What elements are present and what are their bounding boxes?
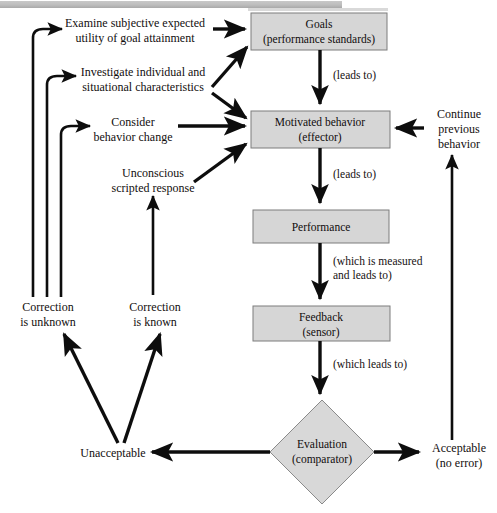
unconscious-line2: scripted response: [112, 181, 195, 195]
label-unacceptable: Unacceptable: [80, 446, 145, 460]
edge-label-feedback-to-evaluation: (which leads to): [333, 358, 407, 371]
label-examine: Examine subjective expected utility of g…: [65, 16, 205, 45]
examine-line2: utility of goal attainment: [76, 31, 196, 45]
correction-known-line1: Correction: [129, 300, 180, 314]
consider-line1: Consider: [111, 115, 154, 129]
unacceptable-line1: Unacceptable: [80, 446, 145, 460]
flowchart-diagram: Goals (performance standards) Motivated …: [0, 0, 497, 513]
label-acceptable: Acceptable (no error): [432, 441, 486, 470]
label-unconscious: Unconscious scripted response: [112, 166, 195, 195]
arrow-investigate-to-behavior: [212, 93, 246, 118]
motivated-behavior-line1: Motivated behavior: [275, 116, 366, 128]
feedback-line2: (sensor): [302, 326, 339, 339]
acceptable-line2: (no error): [436, 456, 482, 470]
continue-line2: previous: [438, 122, 480, 136]
unconscious-line1: Unconscious: [122, 166, 184, 180]
correction-unknown-line2: is unknown: [20, 315, 76, 329]
edge-label-goals-to-behavior: (leads to): [333, 69, 376, 82]
rail-correction-unknown-to-consider: [61, 126, 90, 297]
evaluation-line1: Evaluation: [297, 438, 347, 450]
diagram-canvas: Goals (performance standards) Motivated …: [0, 0, 497, 513]
correction-known-line2: is known: [133, 315, 177, 329]
node-performance-label: Performance: [292, 221, 351, 233]
motivated-behavior-line2: (effector): [298, 131, 341, 144]
arrow-unacceptable-to-correction-unknown: [64, 334, 118, 443]
consider-line2: behavior change: [94, 130, 173, 144]
evaluation-line2: (comparator): [292, 453, 352, 466]
investigate-line2: situational characteristics: [82, 80, 204, 94]
label-continue: Continue previous behavior: [437, 107, 481, 151]
arrow-investigate-to-goals: [212, 47, 247, 87]
examine-line1: Examine subjective expected: [65, 16, 205, 30]
arrow-unacceptable-to-correction-known: [124, 334, 160, 443]
label-correction-known: Correction is known: [129, 300, 180, 329]
correction-unknown-line1: Correction: [22, 300, 73, 314]
label-investigate: Investigate individual and situational c…: [81, 65, 206, 94]
goals-line1: Goals: [306, 18, 333, 30]
label-correction-unknown: Correction is unknown: [20, 300, 76, 329]
goals-line2: (performance standards): [263, 33, 375, 46]
edge-label-performance-to-feedback-1: (which is measured: [333, 255, 423, 268]
node-evaluation: [270, 400, 374, 504]
feedback-line1: Feedback: [299, 311, 343, 323]
edge-label-performance-to-feedback-2: and leads to): [333, 269, 392, 282]
continue-line1: Continue: [437, 107, 481, 121]
continue-line3: behavior: [438, 137, 480, 151]
edge-label-behavior-to-performance: (leads to): [333, 168, 376, 181]
label-consider: Consider behavior change: [94, 115, 173, 144]
acceptable-line1: Acceptable: [432, 441, 486, 455]
performance-line1: Performance: [292, 221, 351, 233]
arrow-unconscious-to-behavior: [194, 144, 246, 182]
investigate-line1: Investigate individual and: [81, 65, 206, 79]
